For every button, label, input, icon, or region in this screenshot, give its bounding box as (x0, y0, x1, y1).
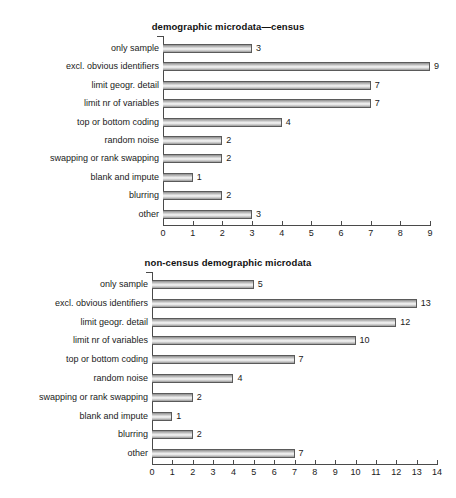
bar-value-label: 7 (299, 353, 304, 365)
category-label: swapping or rank swapping (50, 152, 159, 164)
x-axis-tick (311, 221, 312, 225)
bar-value-label: 2 (197, 391, 202, 403)
category-label: limit nr of variables (84, 97, 159, 109)
category-label: only sample (100, 278, 148, 290)
x-axis-tick (376, 460, 377, 464)
x-axis-tick (254, 460, 255, 464)
x-axis-tick-label: 1 (190, 228, 195, 239)
category-label: other (127, 447, 148, 459)
plot-area: only sample5excl. obvious identifiers13l… (0, 270, 456, 482)
category-label: top or bottom coding (77, 116, 159, 128)
category-label: limit geogr. detail (80, 316, 148, 328)
x-axis-tick-label: 1 (170, 467, 175, 478)
category-label: blank and impute (90, 171, 159, 183)
category-label: limit geogr. detail (91, 79, 159, 91)
x-axis-tick (274, 460, 275, 464)
x-axis-tick-label: 0 (149, 467, 154, 478)
x-axis-tick-label: 14 (432, 467, 442, 478)
category-label: blurring (118, 428, 148, 440)
bar-value-label: 13 (421, 297, 431, 309)
x-axis-tick (193, 460, 194, 464)
bar-row: top or bottom coding4 (0, 118, 456, 127)
bar-row: limit nr of variables7 (0, 99, 456, 108)
bar-row: only sample3 (0, 44, 456, 53)
bar (163, 81, 371, 90)
x-axis-tick-label: 8 (398, 228, 403, 239)
bar-value-label: 10 (360, 334, 370, 346)
x-axis-tick-label: 5 (251, 467, 256, 478)
bar (163, 62, 430, 71)
bar-row: limit geogr. detail7 (0, 81, 456, 90)
x-axis-tick-label: 6 (272, 467, 277, 478)
x-axis-tick-label: 13 (412, 467, 422, 478)
x-axis-tick (341, 221, 342, 225)
bar-row: swapping or rank swapping2 (0, 154, 456, 163)
x-axis-tick-label: 10 (351, 467, 361, 478)
bar-value-label: 7 (375, 79, 380, 91)
bar-row: top or bottom coding7 (0, 355, 456, 364)
x-axis-tick-label: 11 (371, 467, 380, 478)
plot-area: only sample3excl. obvious identifiers9li… (0, 34, 456, 244)
x-axis-tick (282, 221, 283, 225)
x-axis-tick (371, 221, 372, 225)
category-label: random noise (104, 134, 159, 146)
bar (163, 136, 222, 145)
category-label: excl. obvious identifiers (55, 297, 148, 309)
x-axis-line (163, 225, 431, 226)
bar (163, 173, 193, 182)
bar-row: blurring2 (0, 430, 456, 439)
chart-title: demographic microdata—census (0, 20, 456, 34)
category-label: limit nr of variables (73, 334, 148, 346)
x-axis-tick-label: 9 (333, 467, 338, 478)
bar (163, 118, 282, 127)
bar-value-label: 2 (226, 189, 231, 201)
category-label: other (138, 208, 159, 220)
x-axis-tick-label: 3 (211, 467, 216, 478)
bar-value-label: 2 (226, 152, 231, 164)
bar-row: only sample5 (0, 280, 456, 289)
x-axis-tick (437, 460, 438, 464)
bar (152, 449, 295, 458)
bar (152, 299, 417, 308)
cropped-header-artifact (0, 0, 456, 6)
bar-value-label: 1 (197, 171, 202, 183)
x-axis-tick (163, 221, 164, 225)
bar-value-label: 3 (256, 208, 261, 220)
bar (152, 393, 193, 402)
category-label: only sample (111, 42, 159, 54)
bar-row: excl. obvious identifiers9 (0, 62, 456, 71)
x-axis-tick-label: 8 (312, 467, 317, 478)
figure-root: demographic microdata—census only sample… (0, 0, 456, 498)
bar (152, 374, 233, 383)
category-label: excl. obvious identifiers (66, 60, 159, 72)
x-axis-line (152, 464, 438, 465)
bar (163, 44, 252, 53)
bar-value-label: 2 (197, 428, 202, 440)
bar-value-label: 3 (256, 42, 261, 54)
bar (152, 280, 254, 289)
bar-row: blurring2 (0, 191, 456, 200)
x-axis-tick (193, 221, 194, 225)
bar-value-label: 7 (375, 97, 380, 109)
bar-value-label: 4 (286, 116, 291, 128)
x-axis-tick-label: 9 (427, 228, 432, 239)
x-axis-tick-label: 4 (279, 228, 284, 239)
category-label: blank and impute (79, 410, 148, 422)
bar-row: limit nr of variables10 (0, 336, 456, 345)
bar-value-label: 4 (237, 372, 242, 384)
x-axis-tick-label: 5 (309, 228, 314, 239)
bar-value-label: 12 (400, 316, 410, 328)
bar-row: swapping or rank swapping2 (0, 393, 456, 402)
bar (163, 99, 371, 108)
bar-value-label: 5 (258, 278, 263, 290)
bar-row: random noise2 (0, 136, 456, 145)
x-axis-tick-label: 7 (292, 467, 297, 478)
x-axis-tick (430, 221, 431, 225)
x-axis-tick-label: 0 (160, 228, 165, 239)
bar (163, 191, 222, 200)
x-axis-tick-label: 7 (368, 228, 373, 239)
bar-value-label: 2 (226, 134, 231, 146)
bar-value-label: 9 (434, 60, 439, 72)
x-axis-tick (295, 460, 296, 464)
chart-title: non-census demographic microdata (0, 256, 456, 270)
